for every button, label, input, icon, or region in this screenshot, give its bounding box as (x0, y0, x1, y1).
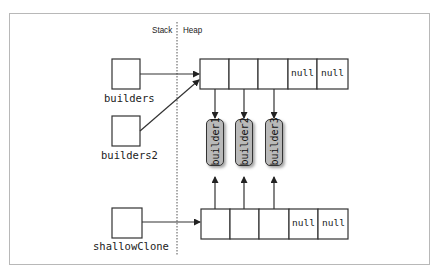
array-bottom-cell-3: null (289, 217, 318, 228)
var-label-shallowclone: shallowClone (93, 240, 169, 252)
var-box-shallowclone (112, 208, 142, 238)
object-builder3: builder3 (265, 119, 283, 166)
object-builder1: builder1 (206, 119, 224, 166)
heap-label: Heap (183, 24, 202, 35)
array-top-cell-3: null (288, 67, 317, 78)
object-label: builder1 (210, 118, 221, 166)
array-bottom-cell-4: null (319, 217, 348, 228)
var-box-builders (112, 59, 140, 89)
var-label-builders: builders (104, 92, 155, 104)
object-label: builder3 (269, 118, 280, 166)
object-label: builder2 (239, 118, 250, 166)
array-top-cell-4: null (318, 67, 347, 78)
stack-label: Stack (152, 24, 172, 35)
var-label-builders2: builders2 (101, 149, 158, 161)
var-box-builders2 (112, 116, 140, 146)
object-builder2: builder2 (235, 119, 253, 166)
